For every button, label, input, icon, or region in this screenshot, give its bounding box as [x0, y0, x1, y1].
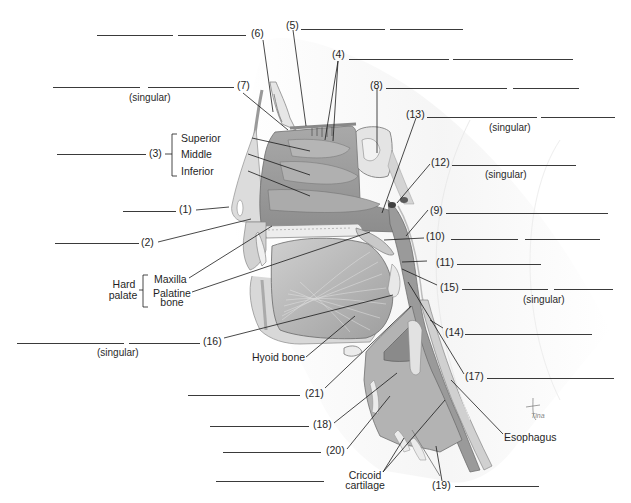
answer-blank-9[interactable] — [446, 213, 608, 214]
hard-palate — [264, 224, 362, 238]
label-17: (17) — [465, 370, 484, 382]
label-7: (7) — [237, 79, 250, 91]
label-10: (10) — [426, 230, 445, 242]
note-singular-16: (singular) — [97, 347, 139, 359]
label-superior: Superior — [181, 132, 221, 144]
answer-blank-cricoid[interactable] — [216, 481, 324, 482]
label-20: (20) — [326, 444, 345, 456]
label-21: (21) — [305, 387, 324, 399]
label-palate: palate — [108, 289, 138, 301]
answer-blank-20[interactable] — [223, 452, 321, 453]
label-hyoid-bone: Hyoid bone — [252, 351, 305, 363]
answer-blank-21[interactable] — [188, 395, 300, 396]
note-singular-12: (singular) — [485, 169, 527, 181]
label-middle: Middle — [181, 148, 212, 160]
label-2: (2) — [141, 236, 154, 248]
answer-blank-16a[interactable] — [17, 343, 124, 344]
answer-blank-13b[interactable] — [541, 117, 615, 118]
label-cartilage: cartilage — [343, 479, 387, 491]
answer-blank-6b[interactable] — [178, 35, 246, 36]
answer-blank-8b[interactable] — [513, 88, 579, 89]
label-18: (18) — [313, 418, 332, 430]
answer-blank-7a[interactable] — [53, 87, 140, 88]
answer-blank-19[interactable] — [455, 486, 539, 487]
answer-blank-4a[interactable] — [349, 59, 449, 60]
answer-blank-11[interactable] — [457, 264, 541, 265]
answer-blank-10b[interactable] — [525, 239, 600, 240]
label-1: (1) — [179, 203, 192, 215]
answer-blank-15a[interactable] — [462, 289, 548, 290]
answer-blank-3[interactable] — [57, 154, 146, 155]
note-singular-13: (singular) — [489, 122, 531, 134]
label-palatine-bone: bone — [152, 296, 192, 308]
label-4: (4) — [332, 48, 345, 60]
answer-blank-16b[interactable] — [129, 343, 200, 344]
answer-blank-10a[interactable] — [451, 239, 518, 240]
label-6: (6) — [251, 27, 264, 39]
label-maxilla: Maxilla — [154, 273, 187, 285]
answer-blank-2[interactable] — [55, 243, 139, 244]
note-singular-15: (singular) — [523, 294, 565, 306]
answer-blank-1[interactable] — [123, 211, 176, 212]
label-19: (19) — [432, 479, 451, 491]
label-3: (3) — [149, 147, 162, 159]
answer-blank-18[interactable] — [210, 426, 309, 427]
label-8: (8) — [370, 79, 383, 91]
answer-blank-4b[interactable] — [453, 59, 573, 60]
answer-blank-8a[interactable] — [386, 88, 507, 89]
label-12: (12) — [431, 156, 450, 168]
label-16: (16) — [203, 335, 222, 347]
label-9: (9) — [430, 204, 443, 216]
label-5: (5) — [286, 19, 299, 31]
artist-signature: Tina — [531, 410, 545, 422]
answer-blank-5a[interactable] — [301, 29, 385, 30]
answer-blank-15b[interactable] — [554, 289, 613, 290]
anatomy-diagram: (6) (5) (4) (7) (8) (13) (3) (12) (1) (9… — [0, 0, 631, 503]
label-13: (13) — [406, 108, 425, 120]
label-inferior: Inferior — [181, 165, 214, 177]
answer-blank-6a[interactable] — [97, 35, 173, 36]
answer-blank-5b[interactable] — [390, 29, 463, 30]
answer-blank-7b[interactable] — [148, 87, 234, 88]
label-11: (11) — [436, 256, 454, 268]
answer-blank-12[interactable] — [452, 165, 576, 166]
answer-blank-17[interactable] — [487, 378, 614, 379]
label-14: (14) — [445, 326, 464, 338]
answer-blank-14[interactable] — [465, 334, 592, 335]
answer-blank-13a[interactable] — [427, 117, 537, 118]
label-esophagus: Esophagus — [504, 431, 557, 443]
note-singular-7: (singular) — [129, 92, 171, 104]
label-15: (15) — [440, 281, 459, 293]
